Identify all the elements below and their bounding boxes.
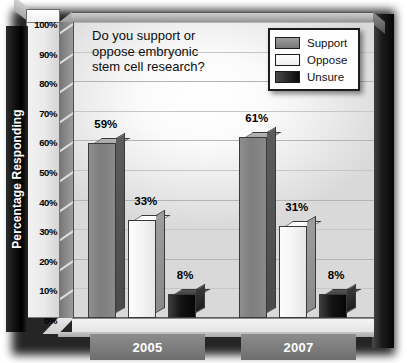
bar-face-front: [88, 143, 116, 318]
bar-oppose-2005[interactable]: [128, 220, 156, 318]
y-axis-title-text: Percentage Responding: [10, 109, 24, 248]
category-label-text: 2007: [283, 340, 313, 355]
y-axis-tick-label: 50%: [39, 167, 57, 178]
chart-title: Do you support oroppose embryonicstem ce…: [92, 28, 262, 75]
bar-value-label: 31%: [285, 201, 308, 213]
legend-label-support: Support: [307, 37, 347, 49]
y-axis-tick-label: 40%: [39, 196, 57, 207]
chart-title-line: stem cell research?: [92, 59, 262, 75]
bar-chart: 100%90%80%70%60%50%40%30%20%10%0% Percen…: [0, 0, 407, 363]
bar-face-front: [239, 137, 267, 318]
y-axis-tick-label: 70%: [39, 107, 57, 118]
bar-face-front: [279, 226, 307, 318]
y-axis-tick-label: 0%: [44, 315, 57, 326]
category-label-2005: 2005: [90, 334, 205, 360]
bar-unsure-2007[interactable]: [319, 294, 347, 318]
support-swatch-icon: [275, 37, 300, 49]
y-axis-tick-label: 90%: [39, 48, 57, 59]
bar-value-label: 33%: [134, 195, 157, 207]
bar-face-side: [196, 284, 205, 313]
y-axis-tick-label: 60%: [39, 137, 57, 148]
bar-face-front: [319, 294, 347, 318]
bar-support-2007[interactable]: [239, 137, 267, 318]
y-axis: 100%90%80%70%60%50%40%30%20%10%0%: [26, 22, 60, 318]
bar-value-label: 8%: [328, 269, 345, 281]
bar-face-front: [128, 220, 156, 318]
legend-label-oppose: Oppose: [307, 54, 347, 66]
bar-oppose-2007[interactable]: [279, 226, 307, 318]
unsure-swatch-icon: [275, 71, 300, 83]
legend-item-unsure: Unsure: [275, 68, 353, 85]
bar-value-label: 8%: [177, 269, 194, 281]
bar-unsure-2005[interactable]: [168, 294, 196, 318]
oppose-swatch-icon: [275, 54, 300, 66]
chart-title-line: Do you support or: [92, 28, 262, 44]
y-axis-tick-label: 10%: [39, 285, 57, 296]
legend-item-oppose: Oppose: [275, 51, 353, 68]
chart-right-wall: [372, 14, 394, 348]
bar-support-2005[interactable]: [88, 143, 116, 318]
legend-item-support: Support: [275, 34, 353, 51]
y-axis-tick-label: 20%: [39, 255, 57, 266]
chart-legend: Support Oppose Unsure: [268, 28, 360, 91]
bar-face-side: [156, 210, 165, 313]
legend-label-unsure: Unsure: [307, 71, 344, 83]
category-label-text: 2005: [132, 340, 162, 355]
y-axis-title: Percentage Responding: [6, 26, 28, 332]
bar-face-side: [347, 284, 356, 313]
chart-title-line: oppose embryonic: [92, 44, 262, 60]
category-label-2007: 2007: [241, 334, 356, 360]
bar-face-side: [116, 133, 125, 313]
bar-face-side: [267, 127, 276, 313]
bar-value-label: 61%: [245, 112, 268, 124]
y-axis-tick-label: 80%: [39, 78, 57, 89]
y-axis-tick-label: 30%: [39, 226, 57, 237]
bar-value-label: 59%: [94, 118, 117, 130]
y-axis-tick-label: 100%: [34, 19, 57, 30]
bar-face-side: [307, 216, 316, 313]
bar-face-front: [168, 294, 196, 318]
